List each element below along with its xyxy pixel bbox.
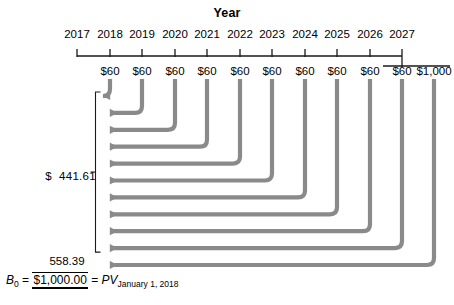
- discount-arrows: [103, 79, 434, 265]
- timeline-graphics: [0, 0, 454, 305]
- timeline-diagram: Year 2017 2018 2019 2020 2021 2022 2023 …: [0, 0, 454, 305]
- timeline-axis: [77, 49, 450, 67]
- annuity-bracket: [91, 92, 101, 252]
